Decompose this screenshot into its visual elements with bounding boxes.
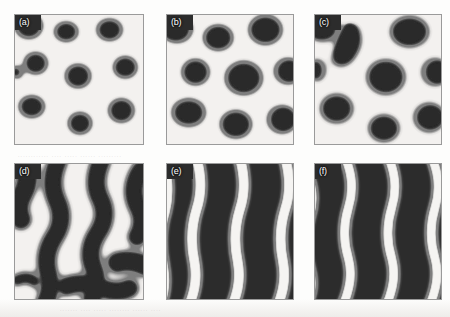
panel-a-image xyxy=(15,15,143,144)
panel-e-image xyxy=(167,164,293,299)
panel-d: (d) xyxy=(14,163,144,300)
bleed-through-text-middle: ............ .... ..... ...... ......... xyxy=(18,152,122,158)
panel-b: (b) xyxy=(166,14,294,145)
figure-root: (a) xyxy=(0,0,450,317)
panel-f: (f) xyxy=(314,163,442,300)
panel-c-image xyxy=(315,15,441,144)
panel-d-image xyxy=(15,164,143,299)
panel-b-image xyxy=(167,15,293,144)
panel-f-image xyxy=(315,164,441,299)
panel-c: (c) xyxy=(314,14,442,145)
bleed-through-text-bottom: ....... .... ..... ........ ...... .... xyxy=(60,306,161,312)
panel-a: (a) xyxy=(14,14,144,145)
panel-e: (e) xyxy=(166,163,294,300)
